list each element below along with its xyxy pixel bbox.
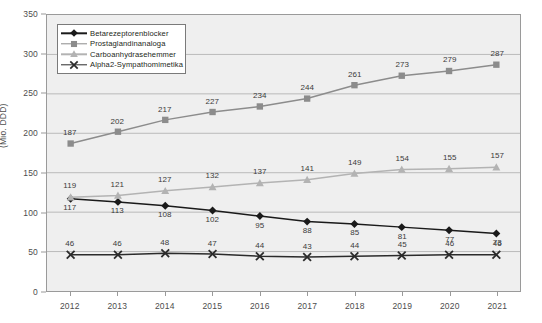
data-point-label: 46 [113, 239, 122, 248]
x-axis-tick-mark [165, 292, 166, 296]
data-point-label: 108 [158, 210, 172, 219]
legend-item-3[interactable]: Alpha2-Sympathomimetika [61, 60, 181, 71]
data-point-label: 137 [253, 167, 267, 176]
x-axis-tick-mark [402, 292, 403, 296]
data-point-label: 43 [303, 242, 312, 251]
data-point-label: 102 [205, 215, 219, 224]
data-point-label: 234 [253, 91, 267, 100]
data-point-label: 45 [398, 240, 407, 249]
data-point-label: 46 [445, 239, 454, 248]
data-point-label: 95 [255, 221, 264, 230]
data-point-label: 227 [205, 97, 219, 106]
data-point-label: 46 [65, 239, 74, 248]
data-point-label: 187 [63, 128, 77, 137]
data-point-label: 85 [350, 228, 359, 237]
data-point-label: 44 [255, 241, 264, 250]
data-point-label: 117 [63, 203, 76, 212]
data-point-label: 279 [443, 55, 457, 64]
data-point-label: 141 [300, 164, 314, 173]
data-point-label: 113 [111, 206, 124, 215]
data-point-label: 88 [303, 226, 312, 235]
data-point-label: 157 [490, 151, 504, 160]
x-axis-tick-mark [450, 292, 451, 296]
data-point-label: 127 [158, 175, 172, 184]
y-axis-title: (Mio. DDD) [0, 104, 8, 149]
x-axis-tick-label: 2019 [392, 301, 412, 311]
data-point-label: 46 [493, 239, 502, 248]
data-point-label: 287 [490, 49, 504, 58]
x-axis-tick-label: 2016 [250, 301, 270, 311]
y-axis-tick-label: 50 [28, 247, 38, 257]
data-point-label: 202 [110, 117, 124, 126]
legend-marker-icon [61, 60, 87, 70]
legend-marker-icon [61, 39, 87, 49]
data-point-label: 244 [300, 83, 314, 92]
data-point-label: 273 [395, 60, 409, 69]
x-axis-tick-label: 2020 [440, 301, 460, 311]
data-point-label: 48 [160, 238, 169, 247]
x-axis-tick-label: 2015 [202, 301, 222, 311]
legend-marker-icon [61, 49, 87, 59]
x-axis-tick-label: 2021 [487, 301, 507, 311]
x-axis-tick-label: 2014 [155, 301, 175, 311]
data-point-label: 121 [110, 180, 124, 189]
x-axis-tick-mark [260, 292, 261, 296]
legend-item-label: Carboanhydrasehemmer [90, 50, 176, 59]
data-point-label: 44 [350, 241, 359, 250]
x-axis-tick-label: 2012 [60, 301, 80, 311]
x-axis-tick-mark [117, 292, 118, 296]
x-axis-tick-mark [497, 292, 498, 296]
y-axis-tick-label: 0 [33, 287, 38, 297]
data-point-label: 261 [348, 70, 362, 79]
legend-item-label: Betarezeptorenblocker [90, 29, 169, 38]
data-point-label: 47 [208, 239, 217, 248]
y-axis-tick-label: 300 [23, 49, 38, 59]
x-axis-tick-mark [70, 292, 71, 296]
data-point-label: 217 [158, 105, 172, 114]
data-point-label: 155 [443, 153, 457, 162]
legend-item-label: Prostaglandinanaloga [90, 39, 165, 48]
data-point-label: 149 [348, 158, 362, 167]
chart-legend: BetarezeptorenblockerProstaglandinanalog… [57, 24, 186, 74]
legend-marker-icon [61, 28, 87, 38]
y-axis: 050100150200250300350 [0, 14, 46, 292]
y-axis-tick-label: 100 [23, 208, 38, 218]
chart-container: 050100150200250300350 (Mio. DDD) 1171131… [0, 0, 542, 323]
x-axis-tick-mark [355, 292, 356, 296]
y-axis-tick-label: 150 [23, 168, 38, 178]
legend-item-label: Alpha2-Sympathomimetika [90, 60, 183, 69]
data-point-label: 154 [395, 154, 409, 163]
x-axis-tick-label: 2018 [345, 301, 365, 311]
x-axis: 2012201320142015201620172018201920202021 [46, 292, 521, 320]
y-axis-tick-label: 350 [23, 9, 38, 19]
x-axis-tick-label: 2013 [107, 301, 127, 311]
y-axis-tick-label: 250 [23, 88, 38, 98]
data-point-label: 132 [205, 171, 219, 180]
x-axis-tick-mark [307, 292, 308, 296]
y-axis-tick-label: 200 [23, 128, 38, 138]
x-axis-tick-mark [212, 292, 213, 296]
data-point-label: 119 [63, 181, 76, 190]
x-axis-tick-label: 2017 [297, 301, 317, 311]
